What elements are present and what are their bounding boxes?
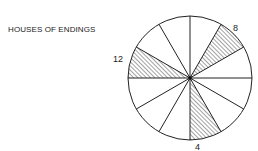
- center-dot: [188, 76, 192, 80]
- houses-wheel: 8 12 4: [0, 0, 258, 151]
- label-house-8: 8: [233, 23, 238, 33]
- label-house-4: 4: [195, 142, 200, 151]
- label-house-12: 12: [113, 54, 123, 64]
